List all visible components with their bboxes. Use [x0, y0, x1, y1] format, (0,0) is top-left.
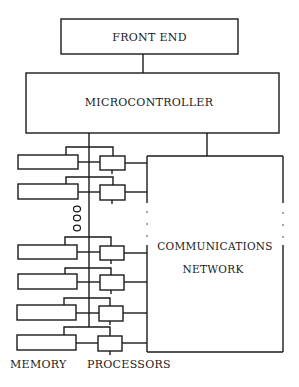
processor-5	[99, 306, 123, 321]
processor-3	[100, 246, 124, 260]
memory-module-3	[18, 245, 77, 259]
front-end-label: FRONT END	[112, 31, 187, 44]
network-label-line1: COMMUNICATIONS	[157, 240, 273, 252]
memory-processor-pair-1	[18, 147, 147, 174]
memory-module-1	[18, 155, 78, 169]
memory-module-6	[17, 335, 76, 350]
memory-processor-pair-2	[18, 177, 147, 204]
front-end-block: FRONT END	[61, 19, 238, 54]
microcontroller-label: MICROCONTROLLER	[85, 96, 214, 109]
memory-processor-pair-5	[17, 298, 147, 325]
processor-1	[100, 156, 125, 170]
diagram-canvas: FRONT END MICROCONTROLLER COMMUNICATIONS…	[0, 0, 299, 387]
microcontroller-block: MICROCONTROLLER	[26, 73, 279, 133]
memory-processor-pair-6	[17, 327, 147, 355]
processor-6	[98, 336, 122, 351]
processor-2	[100, 185, 125, 200]
network-label-line2: NETWORK	[182, 263, 243, 275]
processors-label: PROCESSORS	[87, 358, 171, 371]
memory-module-4	[18, 274, 77, 289]
memory-processor-pair-4	[18, 268, 147, 294]
memory-module-5	[17, 305, 76, 320]
communications-network-block: COMMUNICATIONS NETWORK	[146, 156, 284, 352]
processor-4	[100, 275, 124, 290]
memory-processor-pair-3	[18, 237, 147, 264]
ellipsis-indicator	[74, 206, 81, 231]
memory-label: MEMORY	[10, 358, 67, 371]
memory-module-2	[18, 184, 78, 199]
